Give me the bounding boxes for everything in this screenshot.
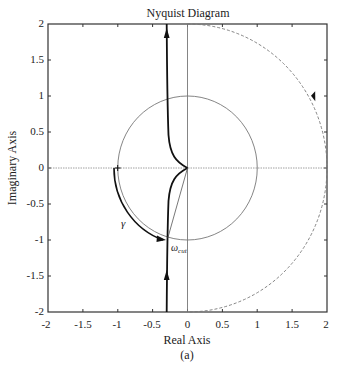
svg-text:0: 0 xyxy=(185,318,191,330)
nyquist-chart: γ ωcut Nyquist Diagram 2 1.5 1 0.5 0 -0.… xyxy=(0,0,340,369)
arc-direction-arrow-icon xyxy=(310,91,316,102)
omega-cut-label: ωcut xyxy=(171,242,188,255)
svg-text:0: 0 xyxy=(39,161,45,173)
y-tick-labels: 2 1.5 1 0.5 0 -0.5 -1 -1.5 -2 xyxy=(27,17,45,317)
svg-text:2: 2 xyxy=(39,17,45,29)
x-axis-label: Real Axis xyxy=(164,333,211,347)
curve-arrow-lower-icon xyxy=(164,270,170,280)
svg-text:2: 2 xyxy=(323,318,329,330)
y-axis-label: Imaginary Axis xyxy=(5,131,19,206)
svg-text:-1.5: -1.5 xyxy=(74,318,92,330)
svg-text:1: 1 xyxy=(254,318,260,330)
svg-text:-0.5: -0.5 xyxy=(27,197,45,209)
crossover-line xyxy=(168,168,188,238)
chart-title: Nyquist Diagram xyxy=(147,6,231,20)
svg-text:-1: -1 xyxy=(112,318,121,330)
curve-arrow-upper-icon xyxy=(164,28,170,38)
svg-text:0.5: 0.5 xyxy=(30,125,44,137)
svg-text:-0.5: -0.5 xyxy=(143,318,161,330)
gamma-label: γ xyxy=(121,217,126,229)
svg-text:-2: -2 xyxy=(41,318,50,330)
figure-caption: (a) xyxy=(180,348,193,362)
svg-text:-1: -1 xyxy=(35,233,44,245)
x-tick-labels: -2 -1.5 -1 -0.5 0 0.5 1 1.5 2 xyxy=(41,318,328,330)
critical-point-marker xyxy=(115,165,121,171)
svg-text:0.5: 0.5 xyxy=(216,318,230,330)
svg-text:1: 1 xyxy=(39,89,45,101)
svg-text:1.5: 1.5 xyxy=(285,318,299,330)
svg-text:-2: -2 xyxy=(35,305,44,317)
gamma-arc xyxy=(114,168,163,240)
svg-text:1.5: 1.5 xyxy=(30,53,44,65)
svg-text:-1.5: -1.5 xyxy=(27,269,45,281)
